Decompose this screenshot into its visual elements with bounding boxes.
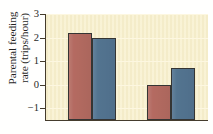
- y-axis-title-line-2: rate (trips/hour): [18, 13, 30, 83]
- bar-shading: [172, 69, 194, 119]
- bar-shading: [93, 39, 115, 119]
- bar-shading: [148, 86, 170, 119]
- y-axis-title: Parental feeding rate (trips/hour): [3, 0, 33, 100]
- gridline-3: [46, 14, 208, 15]
- bar-shading: [69, 34, 91, 119]
- plot-area: [46, 14, 208, 120]
- bar-group2-blue: [171, 68, 195, 120]
- y-axis-line: [45, 14, 46, 121]
- bar-chart-figure: 3 2 1 0 −1 Parental feeding rate (trips/…: [0, 0, 213, 134]
- bar-group2-red: [147, 85, 171, 120]
- bar-group1-blue: [92, 38, 116, 120]
- x-axis-line: [45, 120, 208, 121]
- bar-group1-red: [68, 33, 92, 120]
- y-tick-label-minus1: −1: [14, 103, 44, 114]
- y-axis-title-line-1: Parental feeding: [6, 12, 18, 85]
